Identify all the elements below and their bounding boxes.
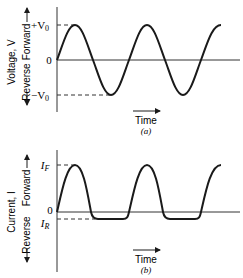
current-curve — [57, 165, 221, 219]
panel-b-current: IF 0 IR Current, I Forward Reverse Time … — [6, 150, 240, 275]
current-forward-label: Forward — [21, 170, 32, 207]
current-tick-if: IF — [40, 159, 50, 173]
voltage-tick-minus-v0: −V0 — [31, 89, 49, 103]
panel-b-caption: (b) — [141, 265, 152, 275]
diode-waveform-figure: +V0 0 −V0 Voltage, V Forward Reverse Tim… — [0, 0, 243, 278]
voltage-tick-plus-v0: +V0 — [31, 19, 49, 33]
current-reverse-label: Reverse — [21, 216, 32, 254]
voltage-forward-label: Forward — [21, 24, 32, 61]
current-time-label: Time — [135, 254, 157, 265]
panel-a-voltage: +V0 0 −V0 Voltage, V Forward Reverse Tim… — [6, 7, 240, 136]
current-tick-ir: IR — [40, 217, 50, 231]
current-axis-label: Current, I — [6, 191, 17, 233]
current-tick-zero: 0 — [47, 204, 53, 216]
voltage-time-label: Time — [135, 115, 157, 126]
panel-a-caption: (a) — [141, 126, 152, 136]
voltage-tick-zero: 0 — [46, 54, 52, 66]
current-direction-labels: Forward Reverse — [21, 155, 32, 262]
voltage-axis-label: Voltage, V — [6, 39, 17, 85]
